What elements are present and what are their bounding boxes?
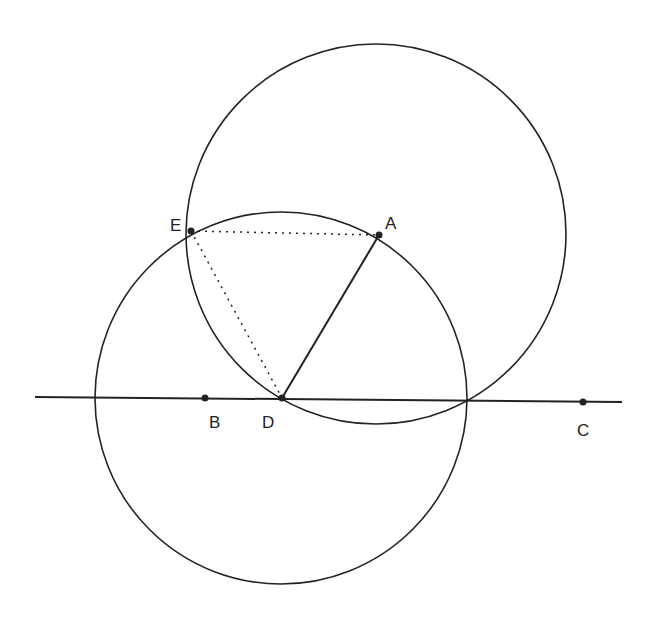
- geometry-diagram: A B C D E: [0, 0, 654, 620]
- label-c: C: [577, 421, 589, 440]
- point-e: [188, 228, 195, 235]
- label-b: B: [209, 413, 220, 432]
- point-a: [376, 232, 383, 239]
- label-d: D: [262, 413, 274, 432]
- point-b: [202, 395, 209, 402]
- point-d: [279, 395, 286, 402]
- segment-ea-dotted: [191, 231, 379, 235]
- segment-ad: [282, 235, 379, 398]
- label-a: A: [385, 214, 397, 233]
- diagram-canvas: A B C D E: [0, 0, 654, 620]
- point-c: [580, 399, 587, 406]
- label-e: E: [170, 216, 181, 235]
- line-bc: [35, 397, 622, 402]
